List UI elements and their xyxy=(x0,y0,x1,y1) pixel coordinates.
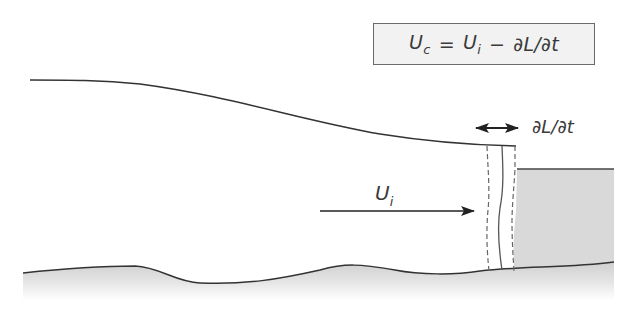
eq-rhs: Ui xyxy=(463,31,481,57)
ice-surface xyxy=(30,80,516,146)
eq-minus: − xyxy=(489,33,505,55)
water-body xyxy=(513,169,614,271)
equation-box: Uc = Ui − ∂L/∂t xyxy=(373,23,595,65)
eq-rate-term: ∂L/∂t xyxy=(513,33,559,55)
ice-velocity-label: Ui xyxy=(375,181,393,209)
front-rate-label: ∂L/∂t xyxy=(532,116,574,137)
calving-front-solid xyxy=(499,146,503,270)
calving-front-dashed-upstream xyxy=(487,146,489,271)
eq-equals: = xyxy=(439,33,455,55)
eq-lhs: Uc xyxy=(409,31,431,57)
